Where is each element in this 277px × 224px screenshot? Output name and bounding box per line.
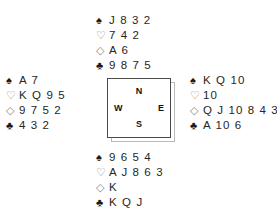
bridge-deal-diagram: ♠ J 8 3 2 ♡ 7 4 2 ◇ A 6 ♣ 9 8 7 5 ♠ A 7 … <box>0 0 277 224</box>
hand-west-hearts-line: ♡ K Q 9 5 <box>6 88 66 103</box>
spade-icon: ♠ <box>96 150 109 165</box>
hand-south-clubs-ranks: K Q J <box>109 195 143 210</box>
heart-icon: ♡ <box>6 88 19 103</box>
hand-east-spades-line: ♠ K Q 10 <box>190 73 277 88</box>
spade-icon: ♠ <box>190 73 203 88</box>
diamond-icon: ◇ <box>96 180 109 195</box>
compass-box-frame: N W E S <box>107 78 171 138</box>
hand-east-clubs-line: ♣ A 10 6 <box>190 118 277 133</box>
hand-east-diamonds-line: ◇ Q J 10 8 4 3 <box>190 103 277 118</box>
hand-north-diamonds-line: ◇ A 6 <box>96 43 152 58</box>
hand-west-diamonds-ranks: 9 7 5 2 <box>19 103 62 118</box>
hand-west: ♠ A 7 ♡ K Q 9 5 ◇ 9 7 5 2 ♣ 4 3 2 <box>6 73 66 133</box>
hand-north-clubs-ranks: 9 8 7 5 <box>109 58 152 73</box>
hand-south-diamonds-ranks: K <box>109 180 118 195</box>
heart-icon: ♡ <box>190 88 203 103</box>
club-icon: ♣ <box>96 58 109 73</box>
hand-north-hearts-ranks: 7 4 2 <box>109 28 140 43</box>
hand-east-clubs-ranks: A 10 6 <box>203 118 242 133</box>
hand-north-diamonds-ranks: A 6 <box>109 43 129 58</box>
hand-south-spades-ranks: 9 6 5 4 <box>109 150 152 165</box>
hand-north-clubs-line: ♣ 9 8 7 5 <box>96 58 152 73</box>
diamond-icon: ◇ <box>6 103 19 118</box>
spade-icon: ♠ <box>6 73 19 88</box>
heart-icon: ♡ <box>96 28 109 43</box>
hand-east-hearts-ranks: 10 <box>203 88 218 103</box>
hand-east-hearts-line: ♡ 10 <box>190 88 277 103</box>
compass-label-north: N <box>136 87 143 96</box>
hand-west-spades-ranks: A 7 <box>19 73 39 88</box>
compass-label-south: S <box>136 120 142 129</box>
club-icon: ♣ <box>96 195 109 210</box>
hand-south-hearts-ranks: A J 8 6 3 <box>109 165 164 180</box>
diamond-icon: ◇ <box>96 43 109 58</box>
hand-south-diamonds-line: ◇ K <box>96 180 164 195</box>
heart-icon: ♡ <box>96 165 109 180</box>
hand-west-clubs-ranks: 4 3 2 <box>19 118 50 133</box>
hand-east: ♠ K Q 10 ♡ 10 ◇ Q J 10 8 4 3 ♣ A 10 6 <box>190 73 277 133</box>
hand-north: ♠ J 8 3 2 ♡ 7 4 2 ◇ A 6 ♣ 9 8 7 5 <box>96 13 152 73</box>
hand-south-spades-line: ♠ 9 6 5 4 <box>96 150 164 165</box>
hand-east-diamonds-ranks: Q J 10 8 4 3 <box>203 103 277 118</box>
hand-west-diamonds-line: ◇ 9 7 5 2 <box>6 103 66 118</box>
spade-icon: ♠ <box>96 13 109 28</box>
compass-box: N W E S <box>107 78 171 138</box>
hand-north-spades-line: ♠ J 8 3 2 <box>96 13 152 28</box>
compass-label-east: E <box>158 104 164 113</box>
hand-south: ♠ 9 6 5 4 ♡ A J 8 6 3 ◇ K ♣ K Q J <box>96 150 164 210</box>
diamond-icon: ◇ <box>190 103 203 118</box>
club-icon: ♣ <box>6 118 19 133</box>
hand-west-spades-line: ♠ A 7 <box>6 73 66 88</box>
hand-south-clubs-line: ♣ K Q J <box>96 195 164 210</box>
hand-north-spades-ranks: J 8 3 2 <box>109 13 151 28</box>
club-icon: ♣ <box>190 118 203 133</box>
hand-west-clubs-line: ♣ 4 3 2 <box>6 118 66 133</box>
compass-label-west: W <box>114 104 123 113</box>
hand-south-hearts-line: ♡ A J 8 6 3 <box>96 165 164 180</box>
hand-east-spades-ranks: K Q 10 <box>203 73 245 88</box>
hand-north-hearts-line: ♡ 7 4 2 <box>96 28 152 43</box>
hand-west-hearts-ranks: K Q 9 5 <box>19 88 66 103</box>
